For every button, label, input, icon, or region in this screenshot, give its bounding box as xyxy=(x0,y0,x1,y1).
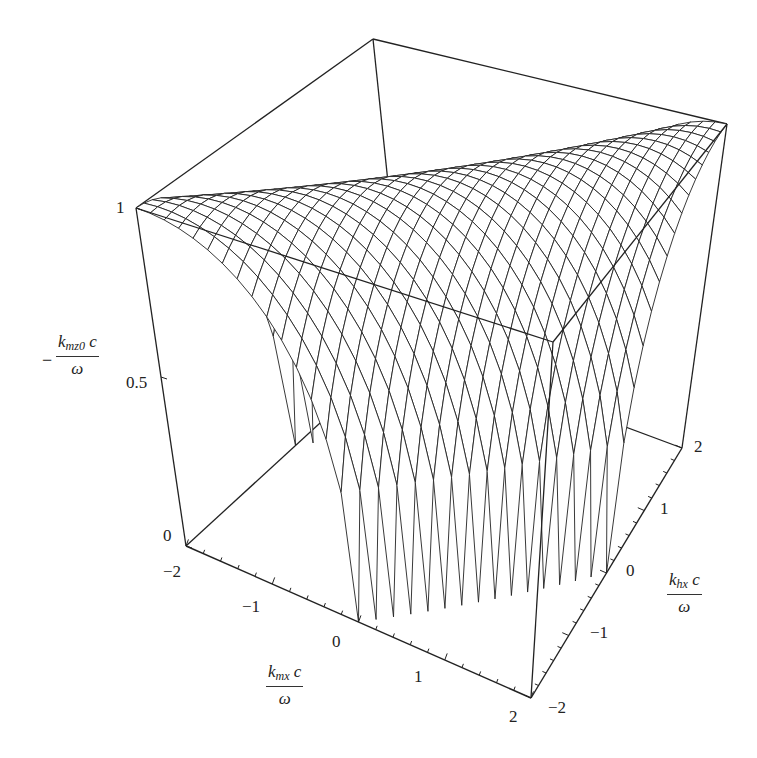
y-tick-mark xyxy=(588,596,592,598)
z-axis-minus-sign: − xyxy=(42,350,52,371)
y-tick-mark xyxy=(610,559,614,561)
y-tick-mark xyxy=(573,621,577,623)
y-tick-2: 2 xyxy=(694,437,703,457)
x-tick-mark xyxy=(497,679,498,683)
z-tick-0.5: 0.5 xyxy=(126,373,147,393)
x-tick-mark xyxy=(272,577,274,584)
x-tick-mark xyxy=(445,653,447,660)
x-tick-mark xyxy=(221,557,222,561)
x-tick-2: 2 xyxy=(509,707,518,727)
y-tick-mark xyxy=(633,521,637,523)
x-tick-mark xyxy=(479,671,480,675)
x-tick-mark xyxy=(255,573,256,577)
x-tick-mark xyxy=(410,641,411,645)
x-tick-1: 1 xyxy=(414,667,423,687)
x-tick-mark xyxy=(514,687,515,691)
x-tick-mark xyxy=(341,611,342,615)
y-tick--1: −1 xyxy=(590,623,608,643)
y-tick--2: −2 xyxy=(548,698,566,718)
y-tick-1: 1 xyxy=(660,499,669,519)
z-tick-1: 1 xyxy=(116,198,125,218)
x-axis-label: kmx c ω xyxy=(266,662,303,709)
x-tick-mark xyxy=(290,588,291,592)
x-tick--1: −1 xyxy=(242,597,260,617)
x-tick-mark xyxy=(376,626,377,630)
z-tick-0: 0 xyxy=(163,526,172,546)
box-edge xyxy=(373,39,727,124)
y-axis-label: khx c ω xyxy=(667,570,702,617)
y-tick-mark xyxy=(648,496,652,498)
y-tick-mark xyxy=(580,609,584,611)
surface-plot xyxy=(0,0,757,758)
y-tick-mark xyxy=(550,659,554,661)
y-tick-mark xyxy=(558,646,562,648)
x-tick-mark xyxy=(462,664,463,668)
x-tick-0: 0 xyxy=(332,632,341,652)
x-tick-mark xyxy=(393,633,394,637)
y-tick-mark xyxy=(542,671,546,673)
x-tick-mark xyxy=(238,565,239,569)
y-tick-mark xyxy=(671,459,675,461)
y-tick-mark xyxy=(638,508,644,511)
x-tick-mark xyxy=(307,595,308,599)
y-tick-mark xyxy=(595,584,599,586)
y-tick-0: 0 xyxy=(626,561,635,581)
y-tick-mark xyxy=(600,570,606,573)
z-axis-label: kmz0 c ω xyxy=(56,332,99,379)
y-tick-mark xyxy=(618,546,622,548)
y-tick-mark xyxy=(525,695,531,698)
y-tick-mark xyxy=(535,684,539,686)
x-tick-mark xyxy=(324,603,325,607)
y-tick-mark xyxy=(625,534,629,536)
x-tick--2: −2 xyxy=(163,562,181,582)
y-tick-mark xyxy=(663,471,667,473)
x-tick-mark xyxy=(428,649,429,653)
y-tick-mark xyxy=(656,484,660,486)
surface-mesh xyxy=(136,121,727,622)
y-tick-mark xyxy=(562,633,568,636)
x-tick-mark xyxy=(203,550,204,554)
